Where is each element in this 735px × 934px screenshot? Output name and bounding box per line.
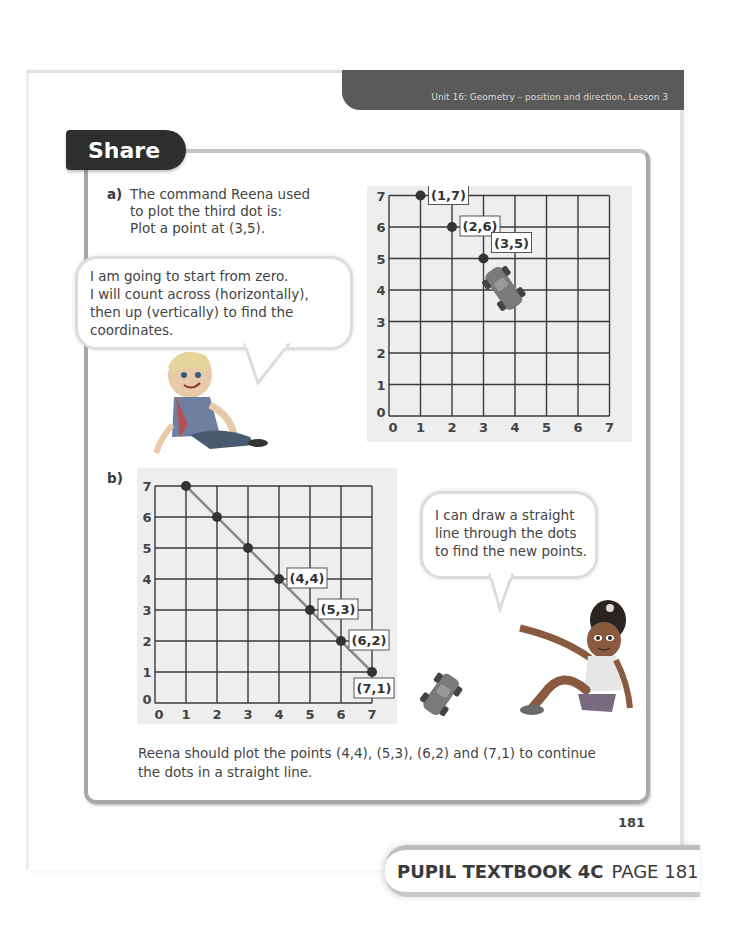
footer-page-label: PAGE 181 xyxy=(611,861,698,882)
bubble-a-line-4: coordinates. xyxy=(90,321,350,339)
part-a-line-3: Plot a point at (3,5). xyxy=(130,220,370,237)
page-number: 181 xyxy=(618,815,645,830)
svg-text:1: 1 xyxy=(142,665,151,680)
point-label: (2,6) xyxy=(463,219,498,234)
svg-text:4: 4 xyxy=(142,572,151,587)
svg-text:6: 6 xyxy=(336,707,345,722)
plotted-point xyxy=(367,667,377,677)
plotted-point xyxy=(305,605,315,615)
point-label: (4,4) xyxy=(290,571,325,586)
svg-text:5: 5 xyxy=(542,420,551,435)
point-label: (7,1) xyxy=(357,681,392,696)
svg-text:6: 6 xyxy=(376,220,385,235)
svg-text:7: 7 xyxy=(376,189,385,204)
part-a-line-1: The command Reena used xyxy=(130,186,370,203)
toy-car-icon xyxy=(415,670,470,720)
bubble-b-line-1: I can draw a straight xyxy=(435,506,595,524)
coordinate-grid-b-panel: 0123456701234567(4,4)(5,3)(6,2)(7,1) xyxy=(137,468,397,724)
svg-text:3: 3 xyxy=(479,420,488,435)
svg-text:3: 3 xyxy=(142,603,151,618)
coordinate-grid-b: 0123456701234567(4,4)(5,3)(6,2)(7,1) xyxy=(137,468,397,724)
svg-text:6: 6 xyxy=(142,510,151,525)
boy-character-illustration xyxy=(150,345,275,460)
coordinate-grid-a: 0123456701234567(1,7)(2,6)(3,5) xyxy=(367,186,632,442)
svg-text:5: 5 xyxy=(305,707,314,722)
bubble-a-line-1: I am going to start from zero. xyxy=(90,267,350,285)
point-label: (1,7) xyxy=(431,188,466,203)
section-title-tab: Share xyxy=(66,130,186,170)
plotted-point xyxy=(479,254,489,264)
svg-text:4: 4 xyxy=(274,707,283,722)
svg-text:4: 4 xyxy=(510,420,519,435)
svg-text:0: 0 xyxy=(388,420,397,435)
answer-line-2: the dots in a straight line. xyxy=(138,763,648,782)
bubble-a-line-2: I will count across (horizontally), xyxy=(90,285,350,303)
svg-text:5: 5 xyxy=(376,252,385,267)
girl-character-illustration xyxy=(512,598,637,723)
plotted-point xyxy=(336,636,346,646)
section-title: Share xyxy=(88,138,160,163)
bubble-b-line-3: to find the new points. xyxy=(435,542,595,560)
svg-text:7: 7 xyxy=(605,420,614,435)
part-a-label: a) xyxy=(107,186,122,203)
footer-book-title: PUPIL TEXTBOOK 4C xyxy=(397,861,603,882)
speech-bubble-girl: I can draw a straight line through the d… xyxy=(420,491,598,579)
part-a-line-2: to plot the third dot is: xyxy=(130,203,370,220)
svg-text:1: 1 xyxy=(416,420,425,435)
svg-text:0: 0 xyxy=(142,692,151,707)
part-b-label: b) xyxy=(107,470,123,487)
svg-text:7: 7 xyxy=(142,479,151,494)
plotted-point xyxy=(212,512,222,522)
plotted-point xyxy=(416,191,426,201)
svg-text:1: 1 xyxy=(376,378,385,393)
svg-text:6: 6 xyxy=(573,420,582,435)
svg-text:0: 0 xyxy=(154,707,163,722)
answer-line-1: Reena should plot the points (4,4), (5,3… xyxy=(138,744,648,763)
svg-text:4: 4 xyxy=(376,283,385,298)
plotted-point xyxy=(243,543,253,553)
answer-text: Reena should plot the points (4,4), (5,3… xyxy=(138,744,648,782)
bubble-b-line-2: line through the dots xyxy=(435,524,595,542)
svg-text:3: 3 xyxy=(376,315,385,330)
plotted-point xyxy=(447,222,457,232)
unit-banner: Unit 16: Geometry – position and directi… xyxy=(342,70,684,110)
point-label: (3,5) xyxy=(494,236,529,251)
svg-text:2: 2 xyxy=(212,707,221,722)
coordinate-grid-a-panel: 0123456701234567(1,7)(2,6)(3,5) xyxy=(367,186,632,442)
svg-text:7: 7 xyxy=(367,707,376,722)
point-label: (6,2) xyxy=(352,633,387,648)
unit-banner-text: Unit 16: Geometry – position and directi… xyxy=(431,92,668,102)
svg-text:0: 0 xyxy=(376,405,385,420)
plotted-point xyxy=(274,574,284,584)
plotted-point xyxy=(181,481,191,491)
bubble-a-line-3: then up (vertically) to find the xyxy=(90,303,350,321)
svg-text:3: 3 xyxy=(243,707,252,722)
svg-text:2: 2 xyxy=(376,346,385,361)
speech-bubble-boy: I am going to start from zero. I will co… xyxy=(75,256,353,350)
svg-text:1: 1 xyxy=(181,707,190,722)
svg-text:2: 2 xyxy=(447,420,456,435)
svg-text:5: 5 xyxy=(142,541,151,556)
point-label: (5,3) xyxy=(321,602,356,617)
svg-text:2: 2 xyxy=(142,634,151,649)
footer-book-reference: PUPIL TEXTBOOK 4C PAGE 181 xyxy=(385,845,700,897)
toy-car-icon xyxy=(479,262,529,315)
